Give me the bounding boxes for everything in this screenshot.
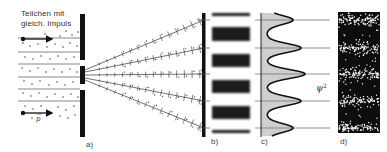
double-slit-diffraction-figure: Teilchen mit gleich. Impuls → p ψ2 a) b)… <box>0 0 387 152</box>
diffracted-rays <box>85 20 204 128</box>
double-slit-wall <box>80 14 85 137</box>
vector-arrow-icon: → <box>36 110 41 117</box>
psi-exponent: 2 <box>323 82 327 89</box>
caption-line-2: gleich. Impuls <box>21 20 71 28</box>
panel-label-a: a) <box>86 141 93 149</box>
psi-symbol: ψ <box>316 83 323 93</box>
momentum-label: → p <box>36 115 40 123</box>
incoming-wavefronts <box>18 38 80 101</box>
interference-bands <box>212 13 250 133</box>
panel-label-c: c) <box>261 138 268 146</box>
momentum-arrow-top <box>21 37 52 41</box>
probability-density-plot <box>255 13 330 137</box>
particle-dots <box>21 30 78 118</box>
ray-dots <box>123 19 202 131</box>
psi-squared-label: ψ2 <box>316 83 327 93</box>
panel-label-d: d) <box>340 138 347 146</box>
panel-label-b: b) <box>211 138 218 146</box>
detection-screen <box>202 13 206 137</box>
caption-line-1: Teilchen mit <box>21 10 64 18</box>
